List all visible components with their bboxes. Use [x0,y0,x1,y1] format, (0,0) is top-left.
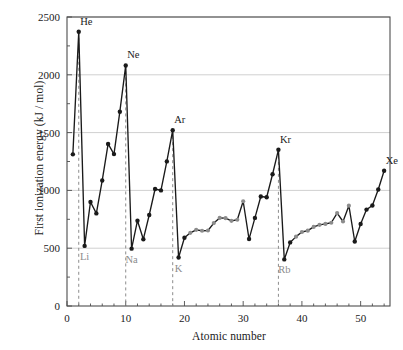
element-annotation-label: Ne [127,49,140,60]
data-point-marker [100,178,104,182]
grid-lines [67,17,390,248]
x-tick-label: 20 [179,312,191,324]
element-annotation-label: Ar [174,114,186,125]
data-point-marker [159,188,163,192]
data-point-marker [382,169,386,173]
data-point-marker [106,142,110,146]
data-point-marker [259,194,263,198]
data-point-marker [171,128,175,132]
data-point-marker [147,213,151,217]
x-axis-tick-labels: 01020304050 [64,312,366,324]
x-axis-title: Atomic number [67,330,391,342]
data-point-marker [323,222,327,226]
data-point-marker [294,235,298,239]
data-point-marker [270,172,274,176]
element-annotation-label: He [80,16,93,27]
data-point-marker [218,216,222,220]
x-tick-label: 0 [64,312,70,324]
data-point-marker [223,216,227,220]
data-point-marker [194,228,198,232]
data-point-marker [112,152,116,156]
data-point-marker [94,211,98,215]
data-point-marker [176,255,180,259]
axis-frame [67,17,390,306]
ionization-energy-chart: 01020304050 05001000150020002500 HeNeArK… [0,0,403,350]
data-point-marker [82,244,86,248]
data-point-marker [370,203,374,207]
data-point-marker [124,63,128,67]
element-annotation-label: K [175,263,183,274]
chart-canvas: 01020304050 05001000150020002500 HeNeArK… [0,0,403,350]
element-annotation-label: Li [80,251,89,262]
data-point-marker [229,219,233,223]
x-tick-label: 30 [238,312,250,324]
data-point-marker [288,240,292,244]
y-axis-title: First ionization energy (kJ / mol) [33,43,45,273]
data-point-marker [253,216,257,220]
y-axis-ticks [67,17,72,306]
data-point-marker [358,222,362,226]
data-point-marker [341,219,345,223]
element-annotation-label: Rb [278,264,290,275]
data-point-marker [200,229,204,233]
y-tick-label: 2500 [38,11,61,23]
data-point-marker [329,221,333,225]
data-point-marker [188,231,192,235]
x-tick-label: 10 [120,312,132,324]
data-point-marker [88,200,92,204]
data-point-marker [71,152,75,156]
data-point-marker [335,211,339,215]
data-point-marker [364,207,368,211]
data-point-marker [235,218,239,222]
data-point-marker [241,199,245,203]
data-point-marker [300,230,304,234]
x-axis-ticks [67,301,384,306]
series-polyline [73,32,384,260]
data-point-marker [317,223,321,227]
data-point-marker [77,30,81,34]
y-tick-label: 0 [55,300,61,312]
data-point-marker [165,159,169,163]
data-point-marker [129,246,133,250]
element-annotation-label: Xe [386,155,399,166]
data-point-marker [212,221,216,225]
element-annotation-label: Na [125,254,138,265]
data-point-marker [206,228,210,232]
element-annotation-label: Kr [280,134,292,145]
data-point-marker [247,237,251,241]
data-point-marker [306,229,310,233]
data-point-marker [141,237,145,241]
ionization-energy-series-markers [71,30,387,262]
data-point-marker [182,236,186,240]
data-point-marker [312,225,316,229]
y-tick-label: 500 [44,242,61,254]
ionization-energy-series-line [73,32,384,260]
data-point-marker [347,204,351,208]
data-point-marker [276,148,280,152]
data-point-marker [153,187,157,191]
x-tick-label: 40 [296,312,308,324]
data-point-marker [376,187,380,191]
data-point-marker [118,109,122,113]
data-point-marker [264,195,268,199]
data-point-marker [282,257,286,261]
data-point-marker [353,239,357,243]
data-point-marker [135,218,139,222]
x-tick-label: 50 [355,312,367,324]
